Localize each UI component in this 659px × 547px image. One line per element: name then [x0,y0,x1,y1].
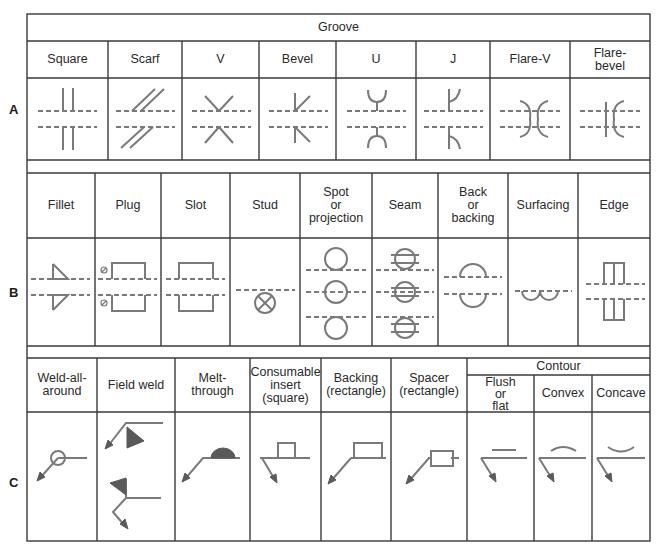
outer-frame [27,14,650,541]
col-label-j: J [416,41,490,78]
slot-weld-symbol-icon [166,263,225,311]
col-label-flare-v: Flare-V [490,41,570,78]
col-label-plug: Plug [95,173,161,238]
col-label-surfacing: Surfacing [508,173,578,238]
contour-header: Contour [467,358,650,375]
backing-rectangle-symbol-icon [328,443,386,484]
flare-v-groove-symbol-icon [500,101,560,137]
section-label-a: A [9,102,18,117]
fillet-weld-symbol-icon [31,264,90,310]
col-label-slot: Slot [161,173,230,238]
u-groove-symbol-icon [347,90,406,148]
field-weld-symbol-icon [105,423,163,529]
edge-weld-symbol-icon [586,263,645,320]
contour-concave-symbol-icon [597,447,645,482]
col-label-melt-through: Melt- through [175,358,250,412]
melt-through-symbol-icon [182,448,240,482]
col-label-stud: Stud [230,173,300,238]
stud-weld-symbol-icon [236,290,295,313]
weld-all-around-symbol-icon [37,451,87,481]
j-groove-symbol-icon [424,89,483,149]
contour-convex-symbol-icon [539,447,586,482]
col-label-concave: Concave [592,375,650,412]
welding-symbols-chart: A B C Groove Square Scarf V Bevel U J Fl… [0,0,659,547]
col-label-square: Square [27,41,108,78]
bevel-groove-symbol-icon [269,93,328,143]
col-label-fillet: Fillet [27,173,95,238]
col-label-back-backing: Back or backing [438,173,508,238]
surfacing-weld-symbol-icon [515,291,572,300]
v-groove-symbol-icon [192,96,251,143]
plug-weld-symbol-icon [98,263,157,311]
col-label-flush-flat: Flush or flat [467,375,534,412]
seam-weld-symbol-icon [376,249,434,338]
section-label-b: B [9,285,18,300]
col-label-scarf: Scarf [108,41,182,78]
col-label-bevel: Bevel [259,41,336,78]
groove-header: Groove [27,14,650,41]
col-label-v: V [182,41,259,78]
col-label-weld-all-around: Weld-all- around [27,358,97,412]
scarf-groove-symbol-icon [116,89,175,148]
col-label-consumable-insert: Consumable insert (square) [250,358,321,412]
spacer-rectangle-symbol-icon [406,451,459,484]
col-label-seam: Seam [372,173,438,238]
col-label-u: U [336,41,416,78]
col-label-spacer: Spacer (rectangle) [391,358,467,412]
back-backing-weld-symbol-icon [444,264,502,307]
col-label-edge: Edge [578,173,650,238]
section-label-c: C [9,475,18,490]
flare-bevel-groove-symbol-icon [580,101,640,137]
col-label-spot-projection: Spot or projection [300,173,372,238]
col-label-backing: Backing (rectangle) [321,358,391,412]
square-groove-symbol-icon [38,88,97,150]
spot-projection-weld-symbol-icon [306,248,366,339]
col-label-field-weld: Field weld [97,358,175,412]
consumable-insert-symbol-icon [260,443,310,483]
chart-grid [0,0,659,547]
col-label-flare-bevel: Flare- bevel [570,41,650,78]
col-label-convex: Convex [534,375,592,412]
contour-flush-symbol-icon [481,450,527,482]
